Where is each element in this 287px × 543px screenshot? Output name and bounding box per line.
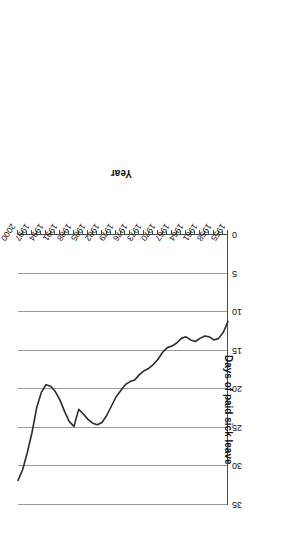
rotated-figure-wrapper: 05101520253035 1955195819611964196719701… xyxy=(0,0,287,543)
data-series-svg xyxy=(18,234,228,505)
line-chart-figure: 05101520253035 1955195819611964196719701… xyxy=(0,0,287,543)
value-tick-label: 10 xyxy=(232,307,258,316)
value-tick-label: 20 xyxy=(232,384,258,393)
value-tick-label: 5 xyxy=(232,269,258,278)
category-axis-title: Year xyxy=(111,168,132,179)
value-tick-label: 35 xyxy=(232,500,258,509)
value-tick-label: 30 xyxy=(232,461,258,470)
value-axis-title: Days of paid sick leave xyxy=(223,355,234,465)
category-tick-label: 2000 xyxy=(0,222,17,243)
sick-leave-line-series xyxy=(18,321,228,480)
value-tick-label: 0 xyxy=(232,230,258,239)
value-tick-label: 25 xyxy=(232,423,258,432)
plot-area: 05101520253035 1955195819611964196719701… xyxy=(18,235,228,505)
value-tick-label: 15 xyxy=(232,346,258,355)
